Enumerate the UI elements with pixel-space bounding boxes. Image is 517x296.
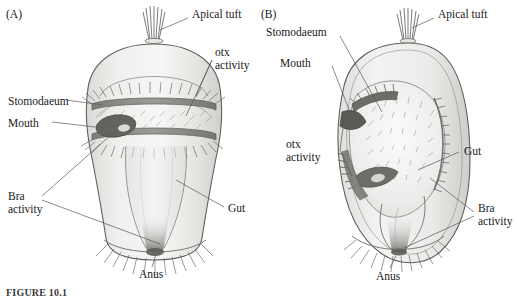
label-a-bra-gene: Bra [8,190,43,203]
label-a-gut: Gut [228,202,245,215]
label-b-gut: Gut [464,145,481,158]
label-b-otx-activity: otx activity [286,138,321,163]
label-a-apical-tuft: Apical tuft [192,8,242,21]
label-a-bra-activity: Bra activity [8,190,43,215]
panel-a-artwork [42,6,225,276]
label-a-otx-gene: otx [215,46,250,59]
panel-b-id: (B) [261,8,276,20]
label-b-bra-activity: Bra activity [478,202,513,227]
figure-container: (A) (B) Apical tuft otx activity Stomoda… [0,0,517,296]
larva-illustration [0,0,517,296]
apical-tuft-icon [143,6,165,40]
figure-caption: FIGURE 10.1 [6,287,67,296]
label-a-mouth: Mouth [8,117,39,130]
label-b-bra-gene: Bra [478,202,513,215]
label-b-anus: Anus [376,270,400,283]
panel-a-id: (A) [6,8,22,20]
label-a-otx-activity: otx activity [215,46,250,71]
label-b-otx-gene: otx [286,138,321,151]
label-b-apical-tuft: Apical tuft [438,8,488,21]
label-b-bra-word: activity [478,215,513,228]
label-a-otx-word: activity [215,59,250,72]
label-a-anus: Anus [139,268,163,281]
label-a-bra-word: activity [8,203,43,216]
label-b-stomodaeum: Stomodaeum [266,26,327,39]
label-a-stomodaeum: Stomodaeum [8,95,69,108]
apical-tuft-icon-b [397,8,419,40]
label-b-mouth: Mouth [280,57,311,70]
label-b-otx-word: activity [286,151,321,164]
apical-plate [145,38,163,43]
panel-b-artwork [332,8,474,272]
